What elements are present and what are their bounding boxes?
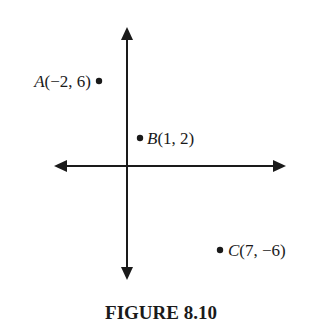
point-a-label: A(−2, 6): [33, 72, 91, 91]
point-a: A(−2, 6): [33, 72, 102, 91]
y-axis-down-arrow-icon: [121, 267, 133, 280]
point-b-dot: [137, 135, 143, 141]
point-a-dot: [96, 78, 102, 84]
point-b: B(1, 2): [137, 129, 194, 148]
x-axis: [54, 160, 286, 172]
coordinate-plane-figure: A(−2, 6) B(1, 2) C(7, −6) FIGURE 8.10: [0, 0, 313, 333]
y-axis: [121, 27, 133, 280]
point-c-label: C(7, −6): [228, 241, 286, 260]
y-axis-up-arrow-icon: [121, 27, 133, 40]
point-b-label: B(1, 2): [147, 129, 194, 148]
x-axis-left-arrow-icon: [54, 160, 67, 172]
figure-caption: FIGURE 8.10: [105, 302, 217, 323]
point-c-dot: [217, 247, 223, 253]
x-axis-right-arrow-icon: [273, 160, 286, 172]
point-c: C(7, −6): [217, 241, 286, 260]
